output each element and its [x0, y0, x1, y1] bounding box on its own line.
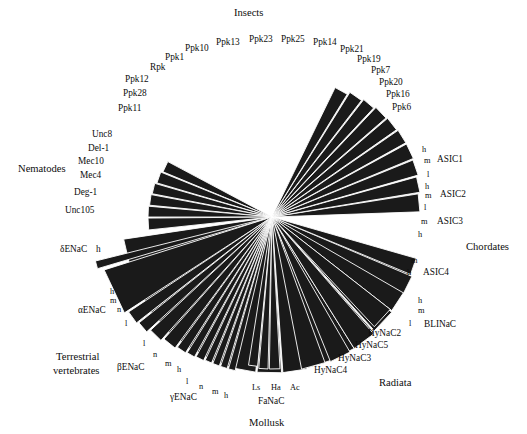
taxon-label: n: [153, 351, 157, 359]
taxon-label: m: [421, 218, 428, 226]
taxon-label: h: [407, 269, 411, 277]
taxon-label: h: [422, 146, 426, 154]
taxon-label: Ppk7: [371, 66, 390, 75]
taxon-label: BLINaC: [424, 320, 456, 329]
taxon-label: Unc8: [92, 130, 112, 139]
taxon-label: h: [96, 245, 101, 254]
taxon-label: m: [212, 388, 219, 396]
taxon-label: Ppk20: [379, 78, 403, 87]
taxon-label: l: [143, 340, 145, 348]
taxon-label: HyNaC4: [314, 366, 347, 375]
taxon-label: HyNaC3: [338, 354, 371, 363]
group-label-terrestrial-2: vertebrates: [53, 366, 99, 377]
taxon-label: Mec10: [78, 157, 104, 166]
taxon-label: l: [186, 378, 188, 386]
taxon-label: m: [165, 360, 172, 368]
group-label-terrestrial-1: Terrestrial: [56, 352, 99, 363]
taxon-label: Ls: [252, 384, 260, 392]
taxon-label: Ppk12: [125, 75, 149, 84]
taxon-label: αENaC: [78, 306, 106, 315]
taxon-label: l: [409, 320, 411, 328]
taxon-label: Ppk1: [165, 53, 184, 62]
taxon-label: n: [199, 383, 203, 391]
taxon-label: Ppk25: [281, 35, 305, 44]
taxon-label: Rpk: [150, 63, 166, 72]
group-label-radiata: Radiata: [379, 378, 411, 389]
taxon-label: Ppk21: [340, 45, 364, 54]
taxon-label: ASIC4: [423, 268, 449, 277]
taxon-label: m: [110, 297, 117, 305]
taxon-label: FaNaC: [258, 397, 284, 406]
taxon-label: m: [411, 257, 418, 265]
taxon-label: Ha: [271, 384, 281, 392]
taxon-label: m: [418, 307, 425, 315]
taxon-label: Mec4: [80, 171, 101, 180]
taxon-label: n: [117, 306, 121, 314]
taxon-label: βENaC: [117, 363, 144, 372]
taxon-label: h: [418, 297, 422, 305]
taxon-label: γENaC: [170, 393, 197, 402]
taxon-label: Ppk10: [185, 44, 209, 53]
group-label-nematodes: Nematodes: [18, 164, 66, 175]
taxon-label: Ppk28: [123, 89, 147, 98]
taxon-label: ASIC2: [440, 190, 466, 199]
taxon-label: Ppk16: [386, 90, 410, 99]
taxon-label: Deg-1: [74, 188, 97, 197]
group-label-mollusk: Mollusk: [249, 418, 284, 429]
taxon-label: Ppk23: [249, 35, 273, 44]
taxon-label: m: [425, 192, 432, 200]
taxon-label: HyNaC2: [368, 329, 401, 338]
taxon-label: h: [177, 366, 181, 374]
taxon-label: Ppk19: [357, 55, 381, 64]
taxon-label: ASIC3: [437, 217, 463, 226]
group-label-chordates: Chordates: [466, 242, 509, 253]
figure-canvas: Ppk11Ppk28Ppk12RpkPpk1Ppk10Ppk13Ppk23Ppk…: [0, 0, 527, 434]
taxon-label: l: [424, 204, 426, 212]
taxon-label: Ac: [290, 384, 300, 392]
taxon-label: h: [224, 392, 228, 400]
taxon-label: δENaC: [60, 245, 87, 254]
taxon-label: Ppk11: [118, 104, 141, 113]
taxon-label: Unc105: [65, 206, 94, 215]
taxon-label: Ppk13: [216, 38, 240, 47]
taxon-label: HyNaC5: [355, 341, 388, 350]
taxon-label: Ppk6: [392, 103, 411, 112]
taxon-label: Del-1: [88, 144, 109, 153]
taxon-label: l: [427, 171, 429, 179]
taxon-label: ASIC1: [437, 155, 463, 164]
taxon-label: m: [424, 157, 431, 165]
taxon-label: h: [418, 231, 422, 239]
group-label-insects: Insects: [234, 8, 263, 19]
taxon-label: l: [125, 320, 127, 328]
taxon-label: Ppk14: [313, 38, 337, 47]
